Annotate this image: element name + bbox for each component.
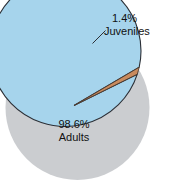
pie-chart-figure: Age 1.4% Juveniles 98.6% Adults — [0, 0, 174, 193]
callout-percent-juveniles: 1.4% — [104, 12, 174, 25]
slice-label-adults: 98.6% Adults — [24, 118, 124, 144]
slice-name-adults: Adults — [24, 131, 124, 144]
callout-label-juveniles: 1.4% Juveniles — [104, 12, 174, 38]
slice-percent-adults: 98.6% — [24, 118, 124, 131]
callout-name-juveniles: Juveniles — [104, 25, 174, 38]
